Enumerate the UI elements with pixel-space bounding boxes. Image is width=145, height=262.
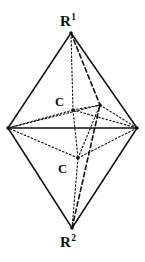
vertex-equator_left (6, 126, 9, 129)
edge-apex_top-to-equator_left (8, 33, 71, 128)
apex-r2-superscript: 2 (71, 233, 76, 243)
dotted-edges-group (8, 33, 137, 228)
edge-equator_right-to-equator_front (100, 105, 137, 128)
vertex-carbon_upper (71, 108, 74, 111)
apex-label-r2: R2 (60, 234, 76, 250)
edge-carbon_upper-to-equator_right (73, 110, 137, 128)
apex-r2-symbol: R (60, 234, 71, 250)
structure-figure: R1 R2 C C (0, 0, 145, 262)
apex-r1-symbol: R (60, 13, 71, 29)
carbon-label-lower: C (58, 163, 67, 176)
bipyramid-diagram (0, 0, 145, 262)
edge-carbon_upper-to-carbon_lower (73, 110, 78, 158)
edge-apex_bottom-to-equator_front (72, 105, 100, 228)
vertex-dots-group (6, 31, 138, 229)
apex-r1-superscript: 1 (71, 12, 76, 22)
vertex-apex_bottom (70, 226, 73, 229)
edge-apex_bottom-to-equator_right (72, 128, 137, 228)
apex-label-r1: R1 (60, 13, 76, 29)
edge-apex_bottom-to-equator_left (8, 128, 72, 228)
carbon-label-upper: C (55, 96, 64, 109)
vertex-equator_right (135, 126, 138, 129)
vertex-equator_front (98, 103, 101, 106)
edge-carbon_lower-to-equator_left (8, 128, 78, 158)
edge-apex_top-to-equator_right (71, 33, 137, 128)
solid-edges-group (8, 33, 137, 228)
vertex-apex_top (69, 31, 72, 34)
edge-carbon_lower-to-equator_right (78, 128, 137, 158)
vertex-carbon_lower (76, 156, 79, 159)
edge-apex_top-to-carbon_upper (71, 33, 73, 110)
